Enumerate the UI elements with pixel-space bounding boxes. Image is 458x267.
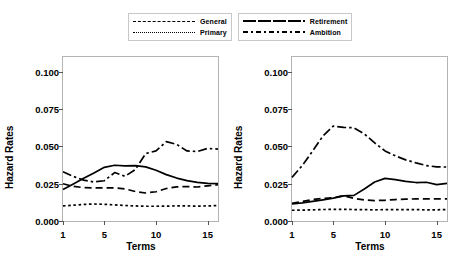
x-tick-mark — [104, 221, 105, 225]
legend-item-general: General — [133, 16, 227, 27]
series-layer — [292, 57, 447, 221]
legend-label-primary: Primary — [200, 27, 227, 38]
chart-panel-right: Hazard Rates 0.0000.0250.0500.0750.10015… — [229, 40, 458, 267]
plot-area-left: 0.0000.0250.0500.0750.100151015 — [62, 56, 219, 222]
x-tick-label: 10 — [151, 229, 162, 240]
x-tick-mark — [63, 221, 64, 225]
x-tick-label: 1 — [60, 229, 65, 240]
y-tick-label: 0.100 — [35, 66, 59, 77]
series-line-primary — [292, 209, 447, 210]
y-tick-label: 0.050 — [264, 141, 288, 152]
legend-item-retirement: Retirement — [243, 16, 348, 27]
series-line-general — [63, 184, 218, 193]
y-axis-label-left: Hazard Rates — [4, 102, 18, 212]
x-tick-label: 15 — [431, 229, 442, 240]
legend-swatch-ambition — [243, 27, 305, 38]
series-line-ambition — [292, 126, 447, 177]
x-tick-label: 5 — [102, 229, 107, 240]
x-axis-label-right: Terms — [291, 241, 449, 252]
series-line-ambition — [63, 142, 218, 182]
legend-label-retirement: Retirement — [310, 16, 348, 27]
legend-swatch-general — [133, 16, 195, 27]
series-line-primary — [63, 204, 218, 206]
legend-column-left: General Primary — [128, 13, 232, 41]
y-tick-label: 0.050 — [35, 141, 59, 152]
x-tick-mark — [208, 221, 209, 225]
legend-swatch-retirement — [243, 16, 305, 27]
x-tick-mark — [292, 221, 293, 225]
x-tick-mark — [333, 221, 334, 225]
legend-item-primary: Primary — [133, 27, 227, 38]
x-tick-label: 10 — [380, 229, 391, 240]
legend-swatch-primary — [133, 27, 195, 38]
chart-figure: General Primary Retirement Ambition Haza… — [0, 0, 458, 267]
plot-area-right: 0.0000.0250.0500.0750.100151015 — [291, 56, 448, 222]
legend-column-right: Retirement Ambition — [238, 13, 353, 41]
x-tick-label: 1 — [289, 229, 294, 240]
y-tick-label: 0.025 — [35, 178, 59, 189]
series-layer — [63, 57, 218, 221]
series-line-retirement — [63, 165, 218, 189]
chart-panel-left: Hazard Rates 0.0000.0250.0500.0750.10015… — [0, 40, 229, 267]
y-tick-label: 0.025 — [264, 178, 288, 189]
legend-label-ambition: Ambition — [310, 27, 341, 38]
x-tick-mark — [437, 221, 438, 225]
legend-item-ambition: Ambition — [243, 27, 348, 38]
x-tick-label: 15 — [202, 229, 213, 240]
y-tick-label: 0.075 — [264, 104, 288, 115]
x-tick-label: 5 — [331, 229, 336, 240]
chart-legend: General Primary Retirement Ambition — [128, 13, 352, 41]
y-tick-label: 0.000 — [35, 216, 59, 227]
y-axis-label-right: Hazard Rates — [233, 102, 247, 212]
x-axis-label-left: Terms — [62, 241, 220, 252]
y-tick-label: 0.000 — [264, 216, 288, 227]
x-tick-mark — [156, 221, 157, 225]
y-tick-label: 0.075 — [35, 104, 59, 115]
x-tick-mark — [385, 221, 386, 225]
series-line-general — [292, 196, 447, 204]
y-tick-label: 0.100 — [264, 66, 288, 77]
legend-label-general: General — [200, 16, 227, 27]
